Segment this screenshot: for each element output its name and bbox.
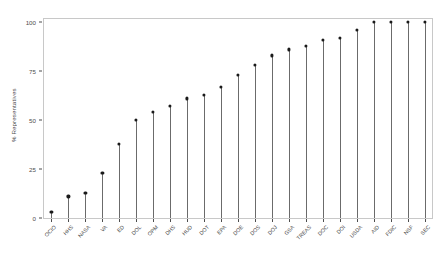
x-tick-label: SEC <box>419 224 431 236</box>
y-tick-label: 50 <box>29 117 36 124</box>
x-tick-mark <box>51 219 52 222</box>
x-tick-mark <box>68 219 69 222</box>
x-tick-label: USDA <box>348 224 363 239</box>
x-tick-mark <box>153 219 154 222</box>
stem-line <box>374 22 375 218</box>
x-tick-label: DOI <box>335 224 346 235</box>
x-tick-label: VA <box>100 224 109 233</box>
stem-line <box>408 22 409 218</box>
y-tick-mark <box>39 169 42 170</box>
x-tick-mark <box>136 219 137 222</box>
x-tick-mark <box>238 219 239 222</box>
y-tick-mark <box>39 120 42 121</box>
stem-line <box>323 40 324 218</box>
x-tick-mark <box>170 219 171 222</box>
x-tick-mark <box>204 219 205 222</box>
x-tick-mark <box>391 219 392 222</box>
x-tick-label: AID <box>369 224 380 235</box>
y-tick-mark <box>39 22 42 23</box>
x-tick-label: EPA <box>216 224 228 236</box>
x-tick-label: DOL <box>130 224 142 236</box>
stem-line <box>85 193 86 218</box>
x-tick-mark <box>255 219 256 222</box>
stem-line <box>255 65 256 218</box>
stem-line <box>102 173 103 218</box>
x-tick-label: GSA <box>283 224 295 236</box>
x-tick-mark <box>374 219 375 222</box>
x-tick-label: DHS <box>164 224 176 236</box>
stem-line <box>204 95 205 218</box>
x-tick-label: TREAS <box>295 224 312 241</box>
y-tick-label: 75 <box>29 68 36 75</box>
y-tick-mark <box>39 71 42 72</box>
chart-figure: % Representatives 0255075100 OCIOHHSNASA… <box>0 0 444 264</box>
stem-line <box>238 75 239 218</box>
x-tick-mark <box>306 219 307 222</box>
stem-line <box>170 106 171 218</box>
stem-line <box>221 87 222 218</box>
stem-line <box>136 120 137 218</box>
x-tick-mark <box>221 219 222 222</box>
x-tick-label: ED <box>116 224 126 234</box>
x-tick-label: OPM <box>147 224 160 237</box>
y-tick-mark <box>39 218 42 219</box>
stem-line <box>119 144 120 218</box>
x-tick-mark <box>85 219 86 222</box>
x-tick-label: DOS <box>249 224 262 237</box>
stem-line <box>153 112 154 218</box>
x-tick-label: DOJ <box>266 224 278 236</box>
x-tick-label: NSF <box>402 224 414 236</box>
x-tick-mark <box>102 219 103 222</box>
x-tick-mark <box>272 219 273 222</box>
x-tick-label: NASA <box>77 224 92 239</box>
x-tick-label: HHS <box>62 224 74 236</box>
stem-line <box>357 30 358 218</box>
x-tick-label: DOC <box>316 224 329 237</box>
stem-line <box>425 22 426 218</box>
stem-line <box>340 38 341 218</box>
y-tick-label: 100 <box>26 19 36 26</box>
x-tick-label: OCIO <box>44 224 58 238</box>
x-tick-mark <box>289 219 290 222</box>
y-tick-label: 0 <box>33 215 36 222</box>
stem-line <box>306 46 307 218</box>
stem-line <box>289 49 290 218</box>
x-tick-mark <box>408 219 409 222</box>
x-tick-mark <box>187 219 188 222</box>
x-tick-mark <box>340 219 341 222</box>
x-tick-label: DOE <box>232 224 245 237</box>
stem-line <box>391 22 392 218</box>
x-tick-label: DOT <box>198 224 210 236</box>
stem-line <box>272 55 273 218</box>
x-tick-mark <box>323 219 324 222</box>
x-tick-mark <box>119 219 120 222</box>
y-axis-ticks: 0255075100 <box>0 0 43 264</box>
y-tick-label: 25 <box>29 166 36 173</box>
x-tick-label: HUD <box>181 224 194 237</box>
stem-line <box>187 98 188 218</box>
x-tick-mark <box>425 219 426 222</box>
x-tick-label: FDIC <box>384 224 397 237</box>
stem-line <box>68 196 69 218</box>
x-tick-mark <box>357 219 358 222</box>
